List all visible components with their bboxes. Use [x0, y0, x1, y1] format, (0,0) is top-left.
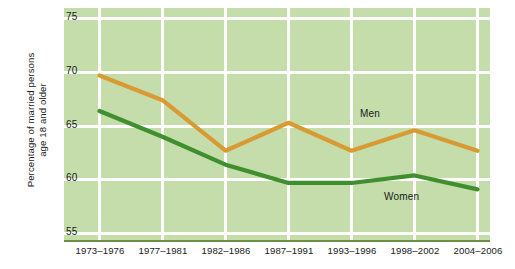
x-tick-label-1987-1991: 1987–1991 [259, 245, 319, 256]
plot-area: Men Women [64, 8, 490, 240]
x-tick-label-1973-1976: 1973–1976 [70, 245, 130, 256]
series-line-men [100, 75, 478, 150]
x-axis-line [64, 240, 490, 242]
y-axis-title: Percentage of married persons age 18 and… [20, 20, 54, 220]
x-tick-label-1993-1996: 1993–1996 [322, 245, 382, 256]
y-axis-title-line-1: Percentage of married persons [25, 53, 37, 188]
series-container [64, 8, 490, 240]
line-chart-figure: Percentage of married persons age 18 and… [0, 0, 515, 269]
x-tick-label-2004-2006: 2004–2006 [448, 245, 508, 256]
y-tick-label-75: 75 [66, 11, 96, 22]
series-label-women: Women [384, 191, 419, 202]
y-tick-label-70: 70 [66, 65, 96, 76]
x-tick-label-1998-2002: 1998–2002 [385, 245, 445, 256]
y-tick-label-60: 60 [66, 172, 96, 183]
y-tick-label-55: 55 [66, 226, 96, 237]
y-axis-title-line-2: age 18 and older [37, 83, 49, 157]
x-tick-label-1977-1981: 1977–1981 [133, 245, 193, 256]
x-tick-label-1982-1986: 1982–1986 [196, 245, 256, 256]
series-label-men: Men [360, 108, 380, 119]
y-tick-label-65: 65 [66, 119, 96, 130]
